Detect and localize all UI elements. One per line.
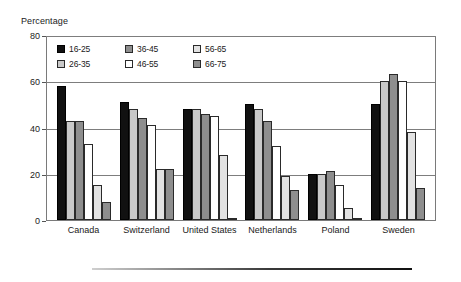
- y-tick-label-20: 20: [18, 170, 40, 180]
- bar-united-states-16-25[interactable]: [183, 109, 192, 220]
- y-tick-label-40: 40: [18, 124, 40, 134]
- bar-switzerland-56-65[interactable]: [156, 169, 165, 220]
- legend-label-46-55: 46-55: [137, 59, 158, 69]
- bar-united-states-26-35[interactable]: [192, 109, 201, 220]
- bar-netherlands-56-65[interactable]: [281, 176, 290, 220]
- bar-united-states-56-65[interactable]: [219, 155, 228, 220]
- bar-sweden-36-45[interactable]: [389, 74, 398, 220]
- bar-poland-66-75[interactable]: [353, 218, 362, 220]
- bar-canada-56-65[interactable]: [93, 185, 102, 220]
- bar-switzerland-26-35[interactable]: [129, 109, 138, 220]
- y-tick-mark-60: [42, 82, 46, 83]
- bar-canada-46-55[interactable]: [84, 144, 93, 220]
- bar-sweden-66-75[interactable]: [416, 188, 425, 220]
- x-label-sweden: Sweden: [368, 225, 430, 259]
- y-tick-label-80: 80: [18, 31, 40, 41]
- bar-canada-16-25[interactable]: [57, 86, 66, 220]
- legend-item-46-55[interactable]: 46-55: [125, 59, 191, 69]
- legend-item-36-45[interactable]: 36-45: [125, 44, 191, 54]
- bar-switzerland-46-55[interactable]: [147, 125, 156, 220]
- bar-netherlands-26-35[interactable]: [254, 109, 263, 220]
- bar-canada-36-45[interactable]: [75, 121, 84, 220]
- legend-label-66-75: 66-75: [205, 59, 226, 69]
- y-tick-label-0: 0: [18, 216, 40, 226]
- legend-label-26-35: 26-35: [69, 59, 90, 69]
- y-tick-label-60: 60: [18, 77, 40, 87]
- x-label-switzerland: Switzerland: [116, 225, 178, 259]
- bar-poland-16-25[interactable]: [308, 174, 317, 220]
- legend-swatch-66-75: [193, 60, 201, 68]
- legend: 16-2536-4556-6526-3546-5566-75: [57, 44, 259, 69]
- legend-swatch-56-65: [193, 45, 201, 53]
- legend-item-26-35[interactable]: 26-35: [57, 59, 123, 69]
- bar-group-poland: [308, 37, 362, 220]
- x-axis-labels: CanadaSwitzerlandUnited StatesNetherland…: [46, 225, 436, 259]
- x-label-poland: Poland: [305, 225, 367, 259]
- bar-poland-36-45[interactable]: [326, 171, 335, 220]
- legend-label-56-65: 56-65: [205, 44, 226, 54]
- bar-switzerland-16-25[interactable]: [120, 102, 129, 220]
- y-axis-title: Percentage: [21, 16, 68, 26]
- legend-item-16-25[interactable]: 16-25: [57, 44, 123, 54]
- legend-label-36-45: 36-45: [137, 44, 158, 54]
- bottom-divider: [92, 268, 412, 270]
- legend-swatch-16-25: [57, 45, 65, 53]
- bar-netherlands-36-45[interactable]: [263, 121, 272, 220]
- legend-swatch-36-45: [125, 45, 133, 53]
- bar-canada-66-75[interactable]: [102, 202, 111, 221]
- x-label-united-states: United States: [179, 225, 241, 259]
- y-tick-mark-0: [42, 221, 46, 222]
- bar-united-states-46-55[interactable]: [210, 116, 219, 220]
- legend-item-66-75[interactable]: 66-75: [193, 59, 259, 69]
- bar-switzerland-66-75[interactable]: [165, 169, 174, 220]
- bar-united-states-36-45[interactable]: [201, 114, 210, 220]
- legend-item-56-65[interactable]: 56-65: [193, 44, 259, 54]
- legend-label-16-25: 16-25: [69, 44, 90, 54]
- bar-sweden-16-25[interactable]: [371, 104, 380, 220]
- legend-swatch-26-35: [57, 60, 65, 68]
- bar-switzerland-36-45[interactable]: [138, 118, 147, 220]
- bar-chart: Percentage 020406080 16-2536-4556-6526-3…: [0, 0, 461, 282]
- y-tick-mark-80: [42, 36, 46, 37]
- bar-netherlands-66-75[interactable]: [290, 190, 299, 220]
- y-tick-mark-40: [42, 129, 46, 130]
- bar-poland-26-35[interactable]: [317, 174, 326, 220]
- x-label-canada: Canada: [53, 225, 115, 259]
- bar-group-sweden: [371, 37, 425, 220]
- legend-swatch-46-55: [125, 60, 133, 68]
- bar-sweden-56-65[interactable]: [407, 132, 416, 220]
- y-tick-mark-20: [42, 175, 46, 176]
- bar-canada-26-35[interactable]: [66, 121, 75, 220]
- bar-poland-46-55[interactable]: [335, 185, 344, 220]
- bar-poland-56-65[interactable]: [344, 208, 353, 220]
- x-label-netherlands: Netherlands: [242, 225, 304, 259]
- bar-sweden-46-55[interactable]: [398, 81, 407, 220]
- bar-netherlands-16-25[interactable]: [245, 104, 254, 220]
- bar-united-states-66-75[interactable]: [228, 218, 237, 220]
- bar-netherlands-46-55[interactable]: [272, 146, 281, 220]
- bar-sweden-26-35[interactable]: [380, 81, 389, 220]
